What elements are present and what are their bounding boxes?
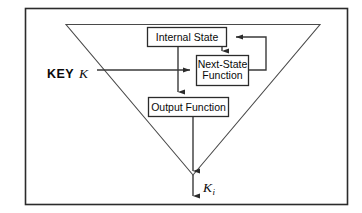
key-word: KEY xyxy=(47,67,74,81)
box-next-state-function[interactable]: Next-State Function xyxy=(197,56,249,86)
block-diagram: Internal State Next-State Function Outpu… xyxy=(0,0,362,213)
keystream-symbol: K xyxy=(202,180,213,195)
box-output-function[interactable]: Output Function xyxy=(149,98,229,117)
diagram-canvas: Internal State Next-State Function Outpu… xyxy=(0,0,362,213)
internal-state-label: Internal State xyxy=(156,31,219,43)
key-symbol: K xyxy=(78,66,89,81)
next-state-function-label-line2: Function xyxy=(202,69,242,81)
output-function-label: Output Function xyxy=(151,101,226,113)
key-input-label: KEYK xyxy=(47,66,89,81)
box-internal-state[interactable]: Internal State xyxy=(148,28,227,47)
svg-text:KEYK: KEYK xyxy=(47,66,89,81)
